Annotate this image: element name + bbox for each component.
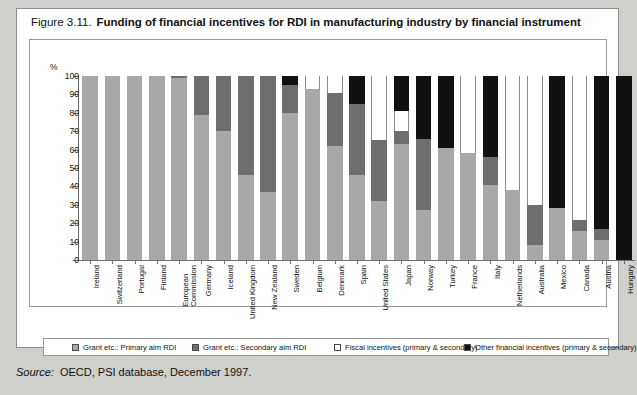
bar-segment [416, 210, 432, 260]
y-axis-tick-label: 80 [55, 108, 79, 118]
bar-segment [171, 78, 187, 260]
bar-segment [527, 76, 543, 205]
bar-ireland[interactable] [82, 76, 98, 260]
bar-segment [305, 76, 321, 89]
bar-austria[interactable] [594, 76, 610, 260]
x-axis-label: Ireland [93, 265, 101, 288]
bar-australia[interactable] [527, 76, 543, 260]
bar-turkey[interactable] [438, 76, 454, 260]
bar-segment [505, 190, 521, 260]
bar-germany[interactable] [194, 76, 210, 260]
bar-segment [594, 76, 610, 229]
bar-segment [371, 76, 387, 140]
bar-italy[interactable] [483, 76, 499, 260]
x-axis-tick [624, 260, 625, 264]
x-axis-tick [201, 260, 202, 264]
chart-legend: Grant etc.: Primary aim RDIGrant etc.: S… [43, 338, 609, 356]
bar-segment [327, 93, 343, 146]
bar-spain[interactable] [349, 76, 365, 260]
x-axis-label: France [471, 265, 479, 289]
bar-segment [194, 115, 210, 260]
x-axis-tick [135, 260, 136, 264]
figure-title-row: Figure 3.11.Funding of financial incenti… [31, 16, 610, 34]
bar-japan[interactable] [394, 76, 410, 260]
bar-new-zealand[interactable] [260, 76, 276, 260]
bar-segment [371, 201, 387, 260]
x-axis-tick [246, 260, 247, 264]
bar-segment [282, 113, 298, 260]
bar-segment [438, 148, 454, 260]
bar-netherlands[interactable] [505, 76, 521, 260]
bar-belgium[interactable] [305, 76, 321, 260]
x-axis-label: Iceland [227, 265, 235, 290]
x-axis-label: Austria [605, 265, 613, 289]
x-axis-label: European Commission [182, 265, 199, 307]
y-axis-tick-label: 40 [55, 181, 79, 191]
x-axis-ticks [79, 260, 635, 264]
x-axis-label: Mexico [560, 265, 568, 289]
y-axis-tick-label: 30 [55, 200, 79, 210]
bar-segment [483, 76, 499, 157]
bar-denmark[interactable] [327, 76, 343, 260]
x-axis-label: Canada [583, 265, 591, 292]
y-axis-tick-label: 20 [55, 218, 79, 228]
legend-item[interactable]: Fiscal incentives (primary & secondary) [334, 343, 478, 352]
x-axis-label: Spain [360, 265, 368, 284]
x-axis-label: Germany [205, 265, 213, 296]
bar-segment [483, 185, 499, 260]
bar-norway[interactable] [416, 76, 432, 260]
bar-series-area [79, 76, 635, 260]
source-label: Source: [16, 366, 54, 378]
bar-segment [216, 131, 232, 260]
bar-segment [327, 76, 343, 93]
bar-mexico[interactable] [549, 76, 565, 260]
bar-segment [594, 240, 610, 260]
x-axis-label: Japan [405, 265, 413, 286]
bar-segment [282, 85, 298, 113]
bar-switzerland[interactable] [105, 76, 121, 260]
legend-item[interactable]: Other financial incentives (primary & se… [464, 343, 637, 352]
y-axis-tick-label: 60 [55, 145, 79, 155]
legend-item[interactable]: Grant etc.: Secondary aim RDI [192, 343, 306, 352]
y-axis-tick-label: 50 [55, 163, 79, 173]
bar-segment [549, 76, 565, 208]
bar-segment [349, 104, 365, 176]
x-axis-label: Italy [494, 265, 502, 279]
x-axis-tick [468, 260, 469, 264]
x-axis-label: Hungary [627, 265, 635, 294]
y-axis-tick-label: 90 [55, 89, 79, 99]
bar-sweden[interactable] [282, 76, 298, 260]
bar-segment [282, 76, 298, 85]
primary-swatch [72, 344, 79, 351]
bar-portugal[interactable] [127, 76, 143, 260]
bar-segment [616, 76, 632, 260]
bar-segment [572, 231, 588, 260]
x-axis-label: United Kingdom [249, 265, 257, 319]
x-axis-label: Australia [538, 265, 546, 295]
legend-item[interactable]: Grant etc.: Primary aim RDI [72, 343, 176, 352]
x-axis-tick [268, 260, 269, 264]
bar-united-states[interactable] [371, 76, 387, 260]
bar-segment [527, 205, 543, 245]
legend-item-label: Grant etc.: Primary aim RDI [83, 343, 176, 352]
bar-segment [594, 229, 610, 240]
x-axis-tick [401, 260, 402, 264]
x-axis-tick [446, 260, 447, 264]
bar-france[interactable] [460, 76, 476, 260]
bar-segment [238, 175, 254, 260]
bar-united-kingdom[interactable] [238, 76, 254, 260]
bar-segment [349, 76, 365, 104]
bar-segment [238, 76, 254, 175]
bar-european-commission[interactable] [171, 76, 187, 260]
bar-segment [394, 144, 410, 260]
x-axis-label: United States [382, 265, 390, 311]
x-axis-tick [513, 260, 514, 264]
bar-iceland[interactable] [216, 76, 232, 260]
bar-segment [127, 76, 143, 260]
bar-segment [572, 76, 588, 220]
y-axis-tick-label: 100 [55, 71, 79, 81]
bar-finland[interactable] [149, 76, 165, 260]
bar-hungary[interactable] [616, 76, 632, 260]
bar-canada[interactable] [572, 76, 588, 260]
bar-segment [527, 245, 543, 260]
